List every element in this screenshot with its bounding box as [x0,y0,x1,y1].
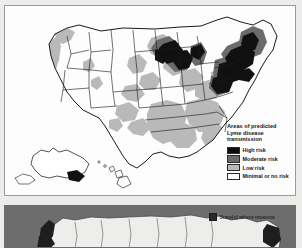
legend-title-line-3: transmission [227,136,296,143]
legend-title-line-1: Areas of predicted [227,123,296,130]
alaska-inset [15,148,89,184]
legend-swatch-moderate-risk [227,155,240,162]
legend-items: High risk Moderate risk Low risk Minimal… [227,146,296,180]
figure-page: Areas of predicted Lyme disease transmis… [0,0,302,248]
legend-label-invasive: State(s) where invasive [220,214,275,220]
legend-label-high-risk: High risk [243,147,266,153]
hawaii-inset [98,161,131,188]
legend-swatch-minimal-risk [227,173,240,180]
legend-label-moderate-risk: Moderate risk [243,156,278,162]
lyme-risk-map-panel: Areas of predicted Lyme disease transmis… [4,5,296,196]
legend-title: Areas of predicted Lyme disease transmis… [227,123,296,143]
invasive-map-legend: State(s) where invasive [209,213,275,221]
legend-swatch-low-risk [227,164,240,171]
legend-item-high-risk: High risk [227,146,296,154]
legend-item-moderate-risk: Moderate risk [227,155,296,163]
legend-label-minimal-risk: Minimal or no risk [243,173,289,179]
legend-item-low-risk: Low risk [227,164,296,172]
legend-swatch-invasive [209,213,217,221]
legend-title-line-2: Lyme disease [227,130,296,137]
legend-label-low-risk: Low risk [243,165,265,171]
invasive-map-panel: State(s) where invasive [4,205,296,248]
legend-swatch-high-risk [227,147,240,154]
map-legend: Areas of predicted Lyme disease transmis… [227,123,296,181]
legend-item-minimal-risk: Minimal or no risk [227,172,296,180]
